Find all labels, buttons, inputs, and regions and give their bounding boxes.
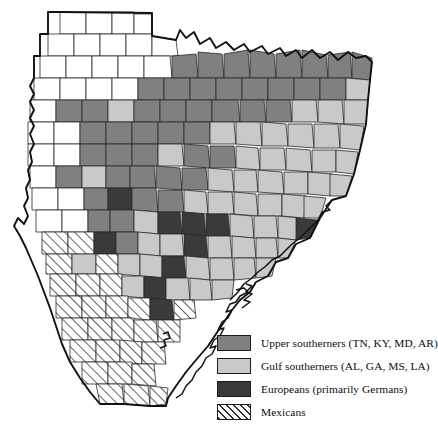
county-area <box>82 296 106 318</box>
county-area <box>36 210 62 232</box>
county-area <box>56 100 82 122</box>
county-area <box>212 280 234 300</box>
legend-swatch-upper_southerners <box>217 335 251 351</box>
county-area <box>184 234 208 258</box>
county-area <box>88 318 112 340</box>
county-area <box>134 210 158 234</box>
county-area <box>108 188 132 210</box>
county-area <box>60 12 86 34</box>
county-area <box>288 124 314 148</box>
county-area <box>30 166 56 188</box>
county-area <box>190 278 212 300</box>
county-area <box>42 232 68 254</box>
county-area <box>72 254 96 274</box>
county-area <box>106 166 130 188</box>
county-area <box>32 188 58 210</box>
county-area <box>132 188 158 212</box>
county-area <box>58 188 84 210</box>
county-area <box>206 214 230 236</box>
county-area <box>56 296 82 318</box>
county-area <box>318 100 344 124</box>
county-area <box>236 122 262 146</box>
county-area <box>160 234 184 256</box>
county-area <box>262 122 288 146</box>
legend-item-upper_southerners: Upper southerners (TN, KY, MD, AR) <box>217 332 423 353</box>
county-area <box>130 166 156 188</box>
legend-swatch-mexicans <box>217 404 251 420</box>
legend-label-europeans: Europeans (primarily Germans) <box>261 383 407 395</box>
county-area <box>216 78 242 100</box>
county-area <box>282 194 306 218</box>
county-area <box>76 274 100 296</box>
county-area <box>134 100 160 122</box>
county-area <box>182 168 208 190</box>
county-area <box>62 210 88 232</box>
county-area <box>108 100 134 122</box>
county-area <box>112 12 134 34</box>
county-area <box>258 194 282 216</box>
county-area <box>328 52 352 78</box>
legend-item-europeans: Europeans (primarily Germans) <box>217 378 423 399</box>
county-area <box>80 122 106 144</box>
county-area <box>70 340 96 362</box>
map-legend: Upper southerners (TN, KY, MD, AR)Gulf s… <box>217 332 423 427</box>
county-area <box>66 56 92 78</box>
county-area <box>250 50 276 78</box>
county-area <box>138 78 164 100</box>
county-area <box>254 216 278 238</box>
legend-item-mexicans: Mexicans <box>217 401 423 422</box>
county-area <box>212 100 240 122</box>
county-area <box>56 166 82 188</box>
county-area <box>172 54 198 78</box>
county-area <box>118 56 144 78</box>
county-area <box>134 320 158 342</box>
county-area <box>308 172 332 196</box>
county-area <box>80 144 106 166</box>
county-area <box>240 100 266 122</box>
county-area <box>210 146 236 168</box>
county-area <box>106 144 132 166</box>
county-area <box>234 170 258 192</box>
county-area <box>110 210 134 232</box>
county-area <box>344 100 368 124</box>
county-area <box>186 256 210 280</box>
county-area <box>54 122 80 144</box>
county-area <box>284 172 308 194</box>
county-area <box>208 236 232 258</box>
county-area <box>144 276 166 300</box>
county-area <box>138 232 160 256</box>
county-area <box>100 274 122 296</box>
county-area <box>158 144 184 166</box>
legend-swatch-europeans <box>217 381 251 397</box>
county-area <box>234 192 258 216</box>
county-area <box>190 78 216 100</box>
county-area <box>158 190 184 212</box>
county-area <box>260 148 286 170</box>
county-area <box>116 232 138 254</box>
county-area <box>242 78 268 100</box>
county-area <box>88 210 110 232</box>
county-area <box>68 232 94 254</box>
county-area <box>122 276 144 298</box>
county-area <box>330 174 352 196</box>
county-area <box>210 122 236 144</box>
county-area <box>346 78 370 100</box>
county-area <box>106 122 132 144</box>
county-area <box>312 150 336 172</box>
county-area <box>94 232 116 254</box>
county-area <box>294 78 320 100</box>
county-area <box>160 100 186 122</box>
county-area <box>164 78 190 100</box>
county-area <box>82 100 108 122</box>
county-area <box>48 34 74 56</box>
county-area <box>60 78 86 100</box>
county-area <box>142 342 166 364</box>
county-area <box>286 148 312 172</box>
county-area <box>140 254 162 278</box>
county-area <box>132 144 158 166</box>
county-area <box>74 34 100 56</box>
county-area <box>150 386 168 406</box>
county-area <box>166 278 190 300</box>
county-area <box>162 256 186 278</box>
county-area <box>82 362 108 384</box>
